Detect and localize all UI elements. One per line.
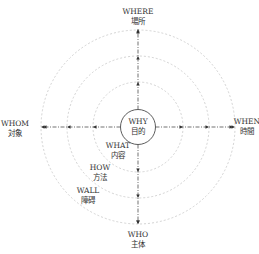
axis-label-right-cn: 時間 (232, 127, 259, 137)
ring-label-what-en: WHAT (102, 141, 134, 151)
5w2h-diagram: WHY 目的 WHERE 場所 WHEN 時間 WHO 主体 WHOM 対象 W… (0, 0, 259, 254)
ring-label-how-en: HOW (85, 163, 115, 173)
ring-label-wall-cn: 障碍 (73, 196, 103, 206)
arrowhead-top-4 (136, 29, 140, 33)
center-label-cn: 目的 (121, 127, 155, 137)
ring-label-what-cn: 内容 (102, 151, 134, 161)
center-label-en: WHY (121, 117, 155, 127)
axis-label-right: WHEN 時間 (232, 117, 259, 137)
ring-label-wall: WALL 障碍 (73, 186, 103, 206)
ring-label-how-cn: 方法 (85, 173, 115, 183)
axis-label-bottom-en: WHO (118, 230, 158, 240)
axis-label-top-en: WHERE (113, 7, 163, 17)
arrowhead-right-2 (205, 125, 209, 129)
arrowhead-left-1 (93, 125, 97, 129)
arrowhead-bottom-2 (136, 194, 140, 198)
arrowhead-right-1 (179, 125, 183, 129)
arrowhead-top-1 (136, 82, 140, 86)
ring-label-what: WHAT 内容 (102, 141, 134, 161)
axis-label-bottom: WHO 主体 (118, 230, 158, 250)
axis-label-bottom-cn: 主体 (118, 240, 158, 250)
axis-label-left: WHOM 対象 (0, 119, 30, 139)
center-label: WHY 目的 (121, 117, 155, 137)
arrowhead-top-2 (136, 56, 140, 60)
axis-label-top-cn: 場所 (113, 17, 163, 27)
ring-label-how: HOW 方法 (85, 163, 115, 183)
axis-label-right-en: WHEN (232, 117, 259, 127)
arrowhead-left-2 (67, 125, 71, 129)
axis-label-left-cn: 対象 (0, 129, 30, 139)
ring-label-wall-en: WALL (73, 186, 103, 196)
arrowhead-bottom-1 (136, 168, 140, 172)
axis-label-top: WHERE 場所 (113, 7, 163, 27)
axis-label-left-en: WHOM (0, 119, 30, 129)
arrowhead-bottom-4 (136, 220, 140, 224)
